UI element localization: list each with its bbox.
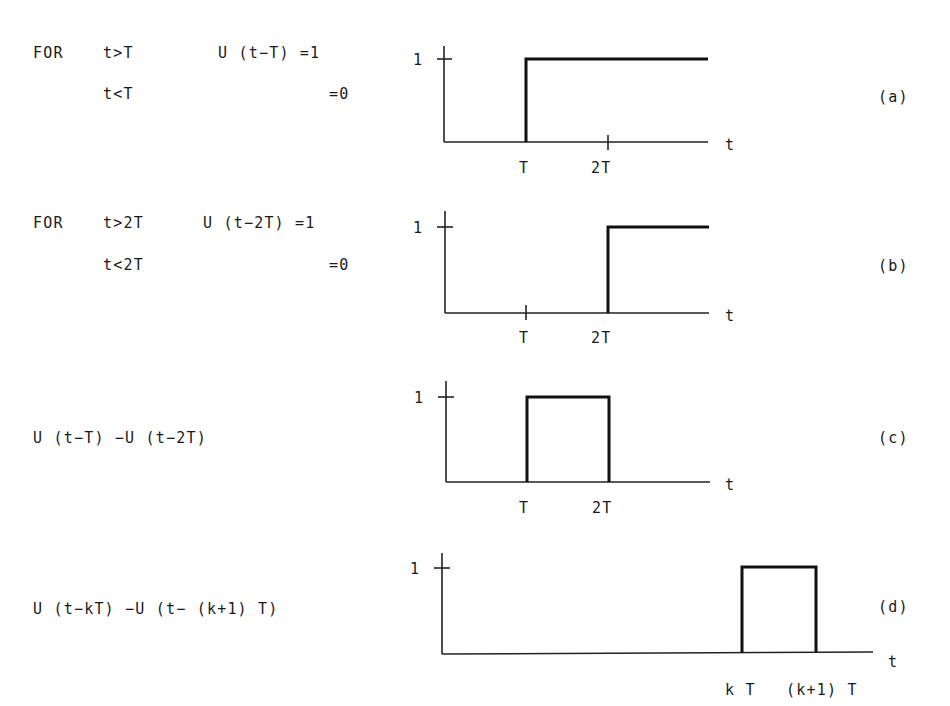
x-axis-label-a: t xyxy=(725,136,735,154)
plot-c: 1 T 2T t xyxy=(414,381,735,517)
plot-d: 1 k T (k+1) T t xyxy=(410,553,898,699)
y-tick-label-b: 1 xyxy=(413,219,423,237)
y-tick-label-d: 1 xyxy=(410,560,420,578)
x-tick-label-2T-a: 2T xyxy=(591,159,611,177)
plot-b: 1 T 2T t xyxy=(413,211,735,347)
y-tick-label-a: 1 xyxy=(413,51,423,69)
y-tick-label-c: 1 xyxy=(414,389,424,407)
x-axis-label-d: t xyxy=(888,653,898,671)
pulse-signal-d xyxy=(742,567,816,653)
x-axis-label-c: t xyxy=(725,476,735,494)
x-tick-label-k1T-d: (k+1) T xyxy=(786,681,858,699)
step-signal-b xyxy=(608,227,709,313)
x-tick-label-T-a: T xyxy=(519,159,529,177)
x-tick-label-T-b: T xyxy=(519,329,529,347)
x-tick-label-kT-d: k T xyxy=(725,681,756,699)
plot-a: 1 T 2T t xyxy=(413,46,735,177)
waveform-plots: 1 T 2T t 1 T 2T t 1 T 2T t xyxy=(0,0,950,706)
x-tick-label-2T-c: 2T xyxy=(592,499,612,517)
pulse-signal-c xyxy=(527,397,609,482)
x-tick-label-2T-b: 2T xyxy=(591,329,611,347)
step-signal-a xyxy=(526,59,708,142)
x-tick-label-T-c: T xyxy=(519,499,529,517)
x-axis-d xyxy=(442,652,873,654)
x-axis-label-b: t xyxy=(725,307,735,325)
unit-step-diagram: FOR t>T U (t−T) =1 t<T =0 (a) FOR t>2T U… xyxy=(0,0,950,706)
